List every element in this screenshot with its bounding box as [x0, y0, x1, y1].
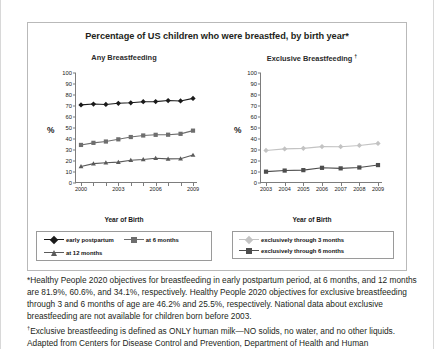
legend-key-exclusively-3-months	[239, 236, 259, 243]
panel-title-text-left: Any Breastfeeding	[91, 53, 156, 62]
x-tick-label: 2009	[372, 186, 384, 192]
y-tick-label: 60	[235, 114, 257, 120]
y-tick-label: 70	[50, 103, 72, 109]
y-tick-label: 80	[50, 92, 72, 98]
legend-item-at-6-months: at 6 months	[124, 236, 179, 243]
x-tick-label: 2000	[75, 186, 87, 192]
legend-key-exclusively-6-months	[239, 247, 259, 254]
x-axis-label-right: Year of Birth	[218, 216, 406, 223]
figure-page: Percentage of US children who were breas…	[0, 0, 434, 349]
series-at-12-months	[79, 153, 196, 169]
y-tick-label: 60	[50, 114, 72, 120]
series-exclusively-through-3-months	[263, 141, 380, 153]
legend-label-exclusively-6-months: exclusively through 6 months	[261, 248, 344, 254]
y-tick-label: 20	[235, 158, 257, 164]
y-tick-label: 40	[235, 136, 257, 142]
legend-left: early postpartum at 6 months	[36, 231, 212, 261]
legend-label-at-6-months: at 6 months	[146, 237, 179, 243]
y-tick-label: 90	[50, 81, 72, 87]
series-early-postpartum	[78, 96, 195, 108]
panel-title-dagger: †	[354, 53, 357, 59]
x-axis-label-left: Year of Birth	[30, 216, 218, 223]
y-tick-label: 100	[235, 70, 257, 76]
x-tick-label: 2003	[112, 186, 124, 192]
y-tick-label: 20	[50, 158, 72, 164]
legend-label-at-12-months: at 12 months	[66, 250, 102, 256]
panel-exclusive-breastfeeding: Exclusive Breastfeeding † % 010203040506…	[218, 53, 406, 265]
y-tick-label: 50	[50, 125, 72, 131]
series-layer	[75, 73, 197, 183]
series-layer	[260, 73, 382, 183]
footnote-source: Adapted from Centers for Disease Control…	[27, 337, 417, 349]
y-tick-label: 10	[235, 169, 257, 175]
legend-item-exclusively-3-months: exclusively through 3 months	[239, 236, 344, 243]
x-tick-label: 2007	[335, 186, 347, 192]
legend-item-at-12-months: at 12 months	[44, 249, 102, 256]
panel-title-exclusive-breastfeeding: Exclusive Breastfeeding †	[218, 53, 406, 63]
series-at-6-months	[79, 129, 195, 147]
footnotes: *Healthy People 2020 objectives for brea…	[27, 274, 417, 349]
series-exclusively-through-6-months	[264, 163, 380, 174]
y-tick-label: 0	[235, 180, 257, 186]
x-tick-label: 2009	[187, 186, 199, 192]
x-tick-label: 2004	[279, 186, 291, 192]
legend-left-row-1: early postpartum at 6 months	[44, 236, 189, 243]
y-tick-label: 30	[50, 147, 72, 153]
legend-label-exclusively-3-months: exclusively through 3 months	[261, 237, 344, 243]
plot-area-right: 0102030405060708090100200320042005200620…	[260, 73, 382, 183]
panel-title-text-right: Exclusive Breastfeeding	[267, 54, 355, 63]
legend-item-exclusively-6-months: exclusively through 6 months	[239, 247, 344, 254]
figure-box: Percentage of US children who were breas…	[27, 22, 407, 271]
x-tick-label: 2006	[316, 186, 328, 192]
y-tick-label: 50	[235, 125, 257, 131]
legend-key-at-6-months	[124, 236, 144, 243]
footnote-dagger: †Exclusive breastfeeding is defined as O…	[27, 322, 417, 337]
legend-right-row-2: exclusively through 6 months	[239, 247, 354, 254]
x-tick-label: 2008	[353, 186, 365, 192]
x-tick-label: 2003	[260, 186, 272, 192]
legend-key-at-12-months	[44, 249, 64, 256]
x-tick-label: 2005	[297, 186, 309, 192]
footnote-dagger-text: Exclusive breastfeeding is defined as ON…	[30, 326, 395, 336]
page-left-edge	[0, 0, 1, 349]
legend-right-row-1: exclusively through 3 months	[239, 236, 354, 243]
x-tick-label: 2006	[150, 186, 162, 192]
footnote-asterisk: *Healthy People 2020 objectives for brea…	[27, 274, 417, 322]
legend-left-row-2: at 12 months	[44, 249, 112, 256]
legend-label-early-postpartum: early postpartum	[66, 237, 114, 243]
y-tick-label: 30	[235, 147, 257, 153]
y-tick-label: 40	[50, 136, 72, 142]
figure-title: Percentage of US children who were breas…	[28, 31, 406, 41]
y-tick-label: 90	[235, 81, 257, 87]
y-tick-label: 70	[235, 103, 257, 109]
y-tick-label: 10	[50, 169, 72, 175]
y-tick-label: 0	[50, 180, 72, 186]
legend-key-early-postpartum	[44, 236, 64, 243]
panel-title-any-breastfeeding: Any Breastfeeding	[30, 53, 218, 62]
legend-item-early-postpartum: early postpartum	[44, 236, 114, 243]
y-tick-label: 80	[235, 92, 257, 98]
y-tick-label: 100	[50, 70, 72, 76]
plot-area-left: 01020304050607080901002000200320062009	[75, 73, 197, 183]
legend-right: exclusively through 3 months exclusively…	[232, 231, 394, 259]
panel-any-breastfeeding: Any Breastfeeding % 01020304050607080901…	[30, 53, 218, 265]
